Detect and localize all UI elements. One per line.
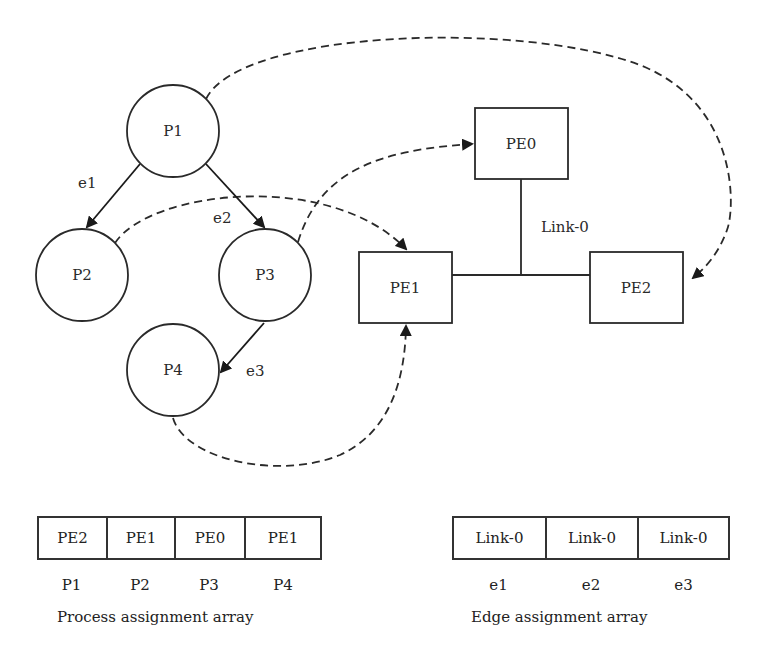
process-assignment-cell: PE2 <box>39 518 108 558</box>
process-index-label: P3 <box>174 576 244 594</box>
edge-assignment-indices: e1 e2 e3 <box>452 576 730 594</box>
link-label: Link-0 <box>541 218 589 236</box>
edge-assignment-cell: Link-0 <box>547 518 639 558</box>
task-mapping-diagram: P1 P2 P3 P4 e1 e2 e3 Link-0 PE0 PE1 PE2 <box>0 0 767 670</box>
mapping-arrow-p3-pe0 <box>298 144 472 242</box>
process-label-p3: P3 <box>255 266 275 284</box>
edge-assignment-cell: Link-0 <box>639 518 728 558</box>
pe-label-pe2: PE2 <box>621 279 652 297</box>
process-assignment-array: PE2 PE1 PE0 PE1 <box>37 516 322 560</box>
process-label-p2: P2 <box>72 266 92 284</box>
edge-label-e2: e2 <box>213 209 231 227</box>
process-index-label: P2 <box>106 576 174 594</box>
edge-index-label: e1 <box>452 576 545 594</box>
process-label-p4: P4 <box>163 361 183 379</box>
process-assignment-cell: PE0 <box>176 518 246 558</box>
process-assignment-caption: Process assignment array <box>57 608 253 626</box>
process-assignment-cell: PE1 <box>246 518 320 558</box>
process-assignment-indices: P1 P2 P3 P4 <box>37 576 322 594</box>
edge-assignment-caption: Edge assignment array <box>471 608 647 626</box>
pe-label-pe1: PE1 <box>390 279 421 297</box>
process-assignment-cell: PE1 <box>108 518 176 558</box>
process-label-p1: P1 <box>163 122 183 140</box>
pe-label-pe0: PE0 <box>506 135 537 153</box>
edge-label-e3: e3 <box>246 362 264 380</box>
edge-label-e1: e1 <box>78 174 96 192</box>
edge-assignment-cell: Link-0 <box>454 518 547 558</box>
process-index-label: P1 <box>37 576 106 594</box>
edge-index-label: e2 <box>545 576 637 594</box>
process-index-label: P4 <box>244 576 322 594</box>
edge-assignment-array: Link-0 Link-0 Link-0 <box>452 516 730 560</box>
edge-index-label: e3 <box>637 576 730 594</box>
